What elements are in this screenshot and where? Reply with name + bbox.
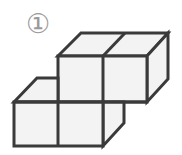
lower-top-face-left: [14, 78, 58, 102]
cube-drawing: [0, 0, 182, 155]
lower-right-face: [103, 102, 124, 146]
upper-cube-block: [58, 33, 168, 102]
cube-figure: ①: [0, 0, 182, 155]
